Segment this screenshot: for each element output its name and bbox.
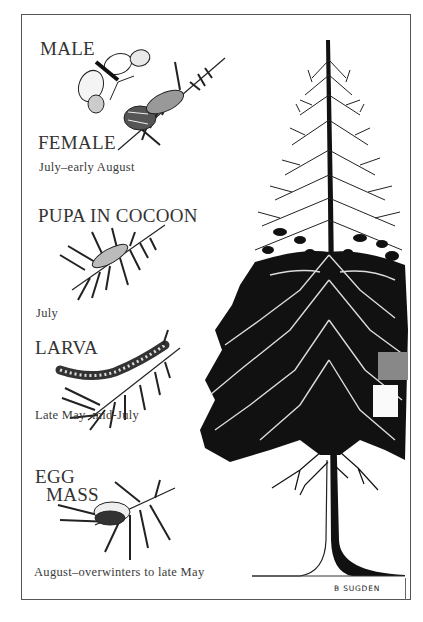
stage-title-pupa: PUPA IN COCOON (38, 205, 198, 227)
female-moth-illustration (118, 58, 225, 150)
pupa-illustration (60, 225, 165, 300)
stage-title-larva: LARVA (35, 337, 98, 359)
stage-time-egg-mass: August–overwinters to late May (34, 565, 204, 580)
stage-time-larva: Late May–mid-July (35, 408, 139, 423)
stage-title-mass: MASS (46, 484, 99, 506)
stage-time-pupa: July (36, 306, 58, 321)
artist-signature: B SUGDEN (334, 584, 380, 593)
illustration-canvas (0, 0, 423, 622)
stage-title-female: FEMALE (38, 132, 116, 154)
stage-time-female: July–early August (39, 160, 135, 175)
tree-illustration (200, 40, 408, 576)
stage-title-male: MALE (40, 38, 95, 60)
signature-divider (405, 578, 406, 600)
